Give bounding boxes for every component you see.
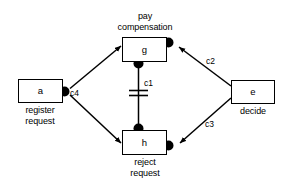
node-e-label: e bbox=[250, 87, 255, 97]
node-h-label: h bbox=[142, 138, 147, 148]
arc-label-c3: c3 bbox=[205, 120, 214, 129]
node-h[interactable]: h bbox=[122, 130, 167, 155]
arc-c4-to-h bbox=[70, 95, 121, 143]
node-g-label: g bbox=[142, 45, 147, 55]
node-g-caption: pay compensation bbox=[104, 11, 186, 32]
node-a-caption: register request bbox=[8, 105, 72, 126]
node-a-label: a bbox=[38, 86, 43, 96]
node-h-caption: reject request bbox=[104, 157, 186, 178]
arc-label-c2: c2 bbox=[206, 57, 215, 66]
arc-label-c4: c4 bbox=[70, 89, 79, 98]
diagram-canvas: a register request g pay compensation h … bbox=[0, 0, 282, 187]
arc-label-c1: c1 bbox=[144, 79, 153, 88]
node-e[interactable]: e bbox=[231, 80, 275, 104]
node-e-caption: decide bbox=[220, 106, 282, 117]
arc-c2-e-to-g bbox=[179, 47, 231, 86]
arc-c4-to-g bbox=[70, 46, 121, 89]
node-g[interactable]: g bbox=[122, 37, 167, 62]
node-a[interactable]: a bbox=[18, 79, 63, 103]
